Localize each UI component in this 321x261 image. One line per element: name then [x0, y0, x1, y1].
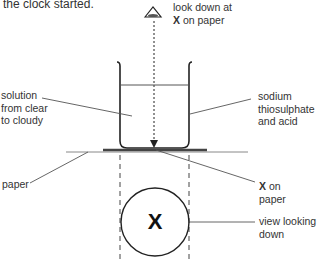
arrowhead-icon	[150, 140, 158, 148]
circle-x-mark: X	[143, 209, 167, 235]
leader-x-on-paper	[156, 150, 255, 182]
label-reagents: sodium thiosulphate and acid	[258, 90, 315, 128]
leader-reagents	[190, 99, 251, 114]
leader-paper	[30, 152, 88, 183]
leader-solution	[42, 98, 132, 116]
label-x-on-paper: X on paper	[259, 180, 286, 205]
label-view: view looking down	[259, 215, 316, 240]
eye-icon	[145, 7, 161, 17]
label-look-down: look down at X on paper	[173, 1, 232, 26]
label-paper: paper	[2, 178, 29, 191]
label-solution: solution from clear to cloudy	[1, 89, 48, 127]
